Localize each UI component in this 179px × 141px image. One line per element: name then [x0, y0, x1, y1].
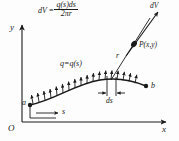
- potential-formula: dV = q(s)ds 2πr: [38, 1, 78, 19]
- endpoint-b-label: b: [151, 82, 155, 90]
- y-axis-label: y: [10, 23, 14, 32]
- formula-denominator: 2πr: [59, 10, 74, 19]
- x-axis-label: x: [162, 125, 166, 134]
- ds-element-label: ds: [106, 97, 113, 105]
- arc-length-label: s: [62, 108, 65, 116]
- formula-fraction: q(s)ds 2πr: [54, 1, 78, 19]
- charge-density-label: q=q(s): [60, 60, 82, 68]
- endpoint-a-label: a: [22, 99, 26, 107]
- dV-vector-label: dV: [150, 2, 158, 10]
- endpoint-b-dot: [144, 84, 148, 88]
- formula-numerator: q(s)ds: [54, 1, 78, 9]
- dV-vector-arrow: [126, 12, 158, 56]
- formula-lhs: dV: [38, 6, 48, 15]
- field-point-label: P(x,y): [139, 41, 157, 49]
- distance-r-label: r: [116, 52, 119, 60]
- physics-diagram-figure: dV = q(s)ds 2πr y x O q=q(s) a b s ds r …: [0, 0, 179, 141]
- endpoint-a-dot: [28, 103, 32, 107]
- charged-wire-curve: [30, 79, 146, 105]
- arc-length-dimension: [30, 107, 58, 118]
- origin-label: O: [8, 124, 15, 133]
- diagram-canvas: [0, 0, 179, 141]
